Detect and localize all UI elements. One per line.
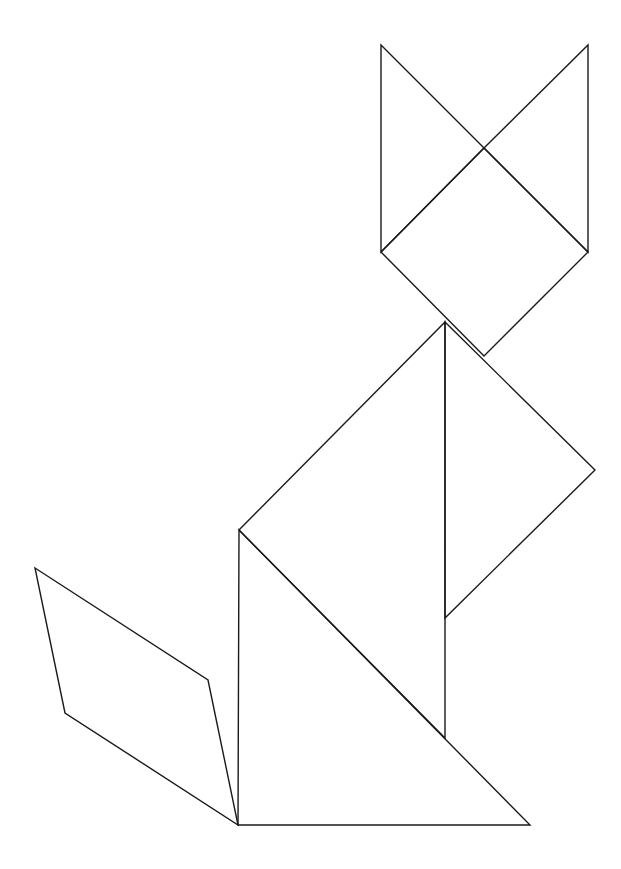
tangram-pieces: [35, 45, 595, 825]
chest-triangle: [445, 322, 595, 618]
tangram-cat-diagram: [0, 0, 621, 869]
body-large-triangle: [239, 322, 445, 738]
body-base-triangle: [238, 530, 530, 825]
tangram-cat-drawing: [0, 0, 621, 869]
tail-parallelogram: [35, 568, 238, 825]
head-square: [381, 148, 588, 356]
right-ear-triangle: [484, 45, 588, 252]
left-ear-triangle: [381, 45, 484, 252]
